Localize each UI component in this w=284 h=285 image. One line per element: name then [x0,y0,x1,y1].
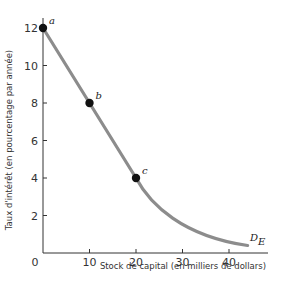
data-point-c [132,174,140,182]
demand-for-capital-chart: 24681012010203040 abc Stock de capital (… [0,0,284,285]
y-tick-label: 2 [31,210,38,223]
data-point-b [85,99,93,107]
data-point-a [39,24,47,32]
y-axis-title: Taux d'intérêt (en pourcentage par année… [4,50,14,231]
y-tick-label: 6 [31,135,38,148]
demand-curve [43,28,248,246]
x-axis-title: Stock de capital (en milliers de dollars… [100,261,266,271]
y-tick-label: 4 [31,172,38,185]
x-tick-label: 10 [83,256,97,269]
point-label-b: b [96,90,102,101]
series-label-main: D [249,232,258,243]
y-tick-label: 8 [31,97,38,110]
x-tick-label: 0 [32,256,39,269]
y-tick-label: 10 [24,60,38,73]
series-label-de: DE [249,232,266,247]
demand-curve-path [43,28,248,246]
point-label-a: a [49,15,55,26]
y-tick-label: 12 [24,22,38,35]
point-label-c: c [142,165,148,176]
series-label-sub: E [257,236,266,247]
data-points: abc [39,15,148,182]
